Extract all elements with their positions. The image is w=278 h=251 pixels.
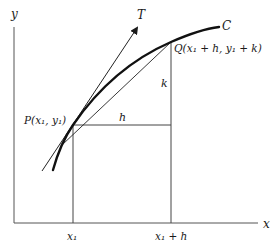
curve-label: C xyxy=(222,19,231,33)
point-p-label: P(x₁, y₁) xyxy=(23,114,66,126)
y-axis-label: y xyxy=(10,7,18,21)
tick-label-x1-plus-h: x₁ + h xyxy=(155,230,187,242)
tangent-label: T xyxy=(137,8,146,22)
k-label: k xyxy=(161,77,168,90)
tick-label-x1: x₁ xyxy=(67,230,77,242)
x-axis-label: x xyxy=(263,217,270,231)
h-label: h xyxy=(119,111,126,124)
secant-tangent-diagram: y x T C P(x₁, y₁) Q(x₁ + h, y₁ + k) h k … xyxy=(0,0,278,251)
secant-line-pq xyxy=(62,42,171,145)
point-q-label: Q(x₁ + h, y₁ + k) xyxy=(174,42,262,55)
tangent-line-t xyxy=(42,28,137,171)
